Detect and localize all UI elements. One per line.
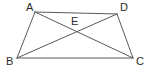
vertex-label-d: D <box>120 2 128 13</box>
vertex-label-a: A <box>26 2 33 13</box>
vertex-label-c: C <box>136 56 144 67</box>
vertex-label-b: B <box>6 56 13 67</box>
geometry-figure: A D B C E <box>0 0 148 72</box>
segment-ad <box>35 12 117 14</box>
vertex-label-e: E <box>71 16 78 27</box>
